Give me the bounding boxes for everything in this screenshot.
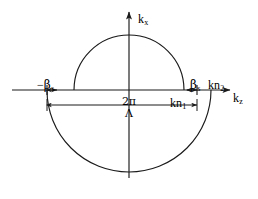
beta-positive-sub: s	[197, 84, 200, 93]
kz-axis-label-sub: z	[239, 97, 243, 106]
kz-axis-label: kz	[233, 89, 243, 106]
kn2-label-sub: 2	[220, 84, 224, 93]
grating-period-numerator: 2π	[116, 96, 142, 107]
beta-negative-sub: s	[51, 84, 54, 93]
beta-negative-symbol: β	[44, 78, 51, 92]
kx-axis-label: kx	[138, 10, 148, 27]
wave-vector-diagram: kx kz −βs βs kn1 kn2 2π Λ	[0, 0, 258, 199]
grating-period-denominator: Λ	[116, 108, 142, 119]
beta-positive-label: βs	[190, 76, 200, 93]
beta-negative-label: −βs	[37, 76, 54, 93]
kn1-label: kn1	[170, 94, 186, 111]
grating-period-label: 2π Λ	[116, 96, 142, 119]
kn1-label-base: kn	[170, 96, 182, 110]
kn1-label-sub: 1	[182, 102, 186, 111]
beta-negative-sign: −	[37, 78, 44, 92]
beta-positive-symbol: β	[190, 78, 197, 92]
kx-axis-label-sub: x	[144, 18, 148, 27]
kn2-label: kn2	[208, 76, 224, 93]
kn2-label-base: kn	[208, 78, 220, 92]
